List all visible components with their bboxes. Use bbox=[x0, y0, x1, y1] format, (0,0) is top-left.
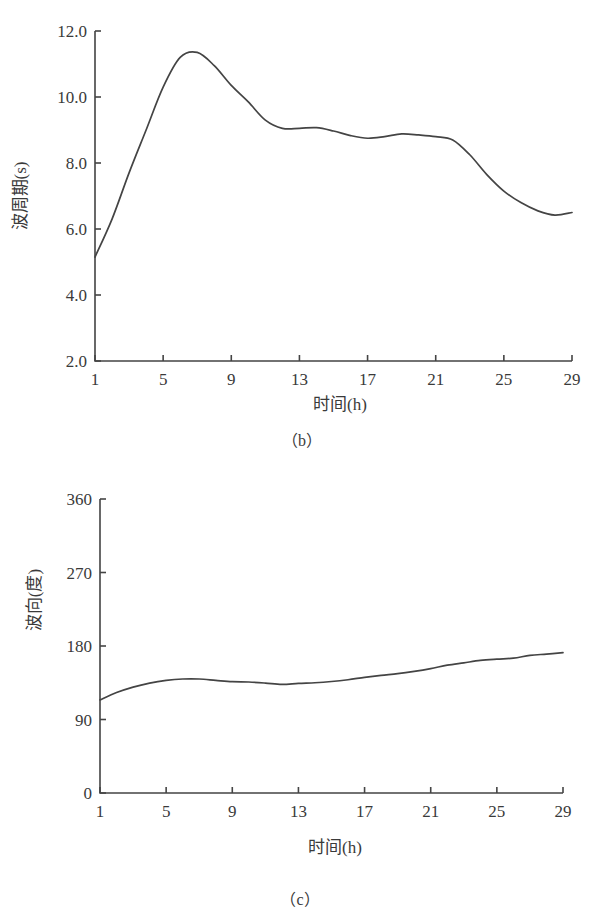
x-tick-label: 25 bbox=[495, 370, 512, 389]
data-line bbox=[95, 52, 572, 257]
x-axis-title: 时间(h) bbox=[313, 395, 367, 414]
y-tick-label: 180 bbox=[67, 637, 93, 656]
figure-caption: （c） bbox=[280, 891, 319, 908]
y-axis-title: 波周期(s) bbox=[11, 162, 30, 231]
y-tick-label: 10.0 bbox=[57, 88, 87, 107]
x-tick-label: 13 bbox=[290, 802, 307, 821]
y-axis-title: 波向(度) bbox=[25, 569, 44, 631]
x-tick-label: 9 bbox=[228, 802, 237, 821]
x-tick-label: 17 bbox=[359, 370, 377, 389]
x-tick-label: 17 bbox=[356, 802, 374, 821]
data-line bbox=[100, 653, 563, 700]
x-tick-label: 29 bbox=[555, 802, 572, 821]
y-tick-label: 90 bbox=[75, 711, 92, 730]
y-tick-label: 12.0 bbox=[57, 22, 87, 41]
x-tick-label: 5 bbox=[162, 802, 171, 821]
x-axis-title: 时间(h) bbox=[308, 838, 362, 857]
x-tick-label: 1 bbox=[96, 802, 105, 821]
figure: 2.04.06.08.010.012.01591317212529波周期(s)时… bbox=[0, 0, 590, 924]
x-tick-label: 1 bbox=[91, 370, 100, 389]
figure-caption: （b） bbox=[282, 432, 322, 449]
x-tick-label: 21 bbox=[422, 802, 439, 821]
y-tick-label: 2.0 bbox=[66, 352, 87, 371]
x-tick-label: 25 bbox=[488, 802, 505, 821]
chart-wave-direction: 0901802703601591317212529波向(度)时间(h)（c） bbox=[25, 490, 572, 908]
x-tick-label: 5 bbox=[159, 370, 168, 389]
chart-wave-period: 2.04.06.08.010.012.01591317212529波周期(s)时… bbox=[11, 22, 581, 449]
axis-lines bbox=[100, 499, 563, 793]
y-tick-label: 360 bbox=[67, 490, 93, 509]
y-tick-label: 6.0 bbox=[66, 220, 87, 239]
x-tick-label: 9 bbox=[227, 370, 236, 389]
y-tick-label: 0 bbox=[84, 784, 93, 803]
y-tick-label: 270 bbox=[67, 564, 93, 583]
y-tick-label: 8.0 bbox=[66, 154, 87, 173]
x-tick-label: 21 bbox=[427, 370, 444, 389]
x-tick-label: 13 bbox=[291, 370, 308, 389]
x-tick-label: 29 bbox=[564, 370, 581, 389]
y-tick-label: 4.0 bbox=[66, 286, 87, 305]
